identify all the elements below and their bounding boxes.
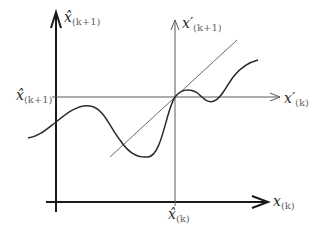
nonlinear-curve: [28, 60, 258, 157]
main-x-axis-label: x(k): [273, 193, 295, 211]
prime-x-axis-label: x′(k): [284, 90, 309, 108]
main-y-axis-label: x̂(k+1): [64, 9, 101, 27]
tick-y-operating-label: x̂(k+1): [16, 87, 53, 105]
tick-x-operating-label: x̂(k): [168, 206, 190, 224]
linearization-diagram: x̂(k+1) x′(k+1) x̂(k+1) x′(k) x(k) x̂(k): [0, 0, 321, 233]
prime-y-axis-label: x′(k+1): [182, 15, 222, 33]
